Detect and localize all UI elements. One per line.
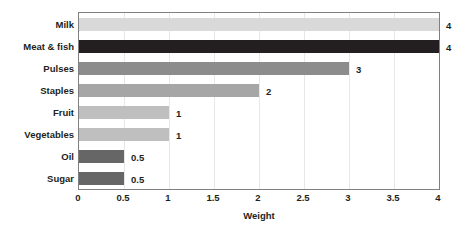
bar-value-fruit: 1	[176, 109, 181, 119]
bar-value-sugar: 0.5	[131, 175, 144, 185]
bar-chart: MilkMeat & fishPulsesStaplesFruitVegetab…	[0, 0, 472, 235]
bar-value-vegetables: 1	[176, 131, 181, 141]
x-tick-label: 0	[75, 193, 80, 203]
x-axis-title: Weight	[78, 211, 440, 221]
bar-value-pulses: 3	[356, 65, 361, 75]
x-tick-label: 2.5	[296, 193, 309, 203]
x-tick-label: 0.5	[116, 193, 129, 203]
x-tick-label: 1.5	[206, 193, 219, 203]
bar-value-oil: 0.5	[131, 153, 144, 163]
x-tick-label: 4	[435, 193, 440, 203]
x-tick-label: 3.5	[386, 193, 399, 203]
bar-value-meat-fish: 4	[446, 43, 451, 53]
x-axis-ticks: 00.511.522.533.54	[78, 193, 440, 209]
x-tick-label: 3	[345, 193, 350, 203]
x-tick-label: 2	[255, 193, 260, 203]
bar-value-milk: 4	[446, 21, 451, 31]
bar-value-staples: 2	[266, 87, 271, 97]
x-tick-label: 1	[165, 193, 170, 203]
